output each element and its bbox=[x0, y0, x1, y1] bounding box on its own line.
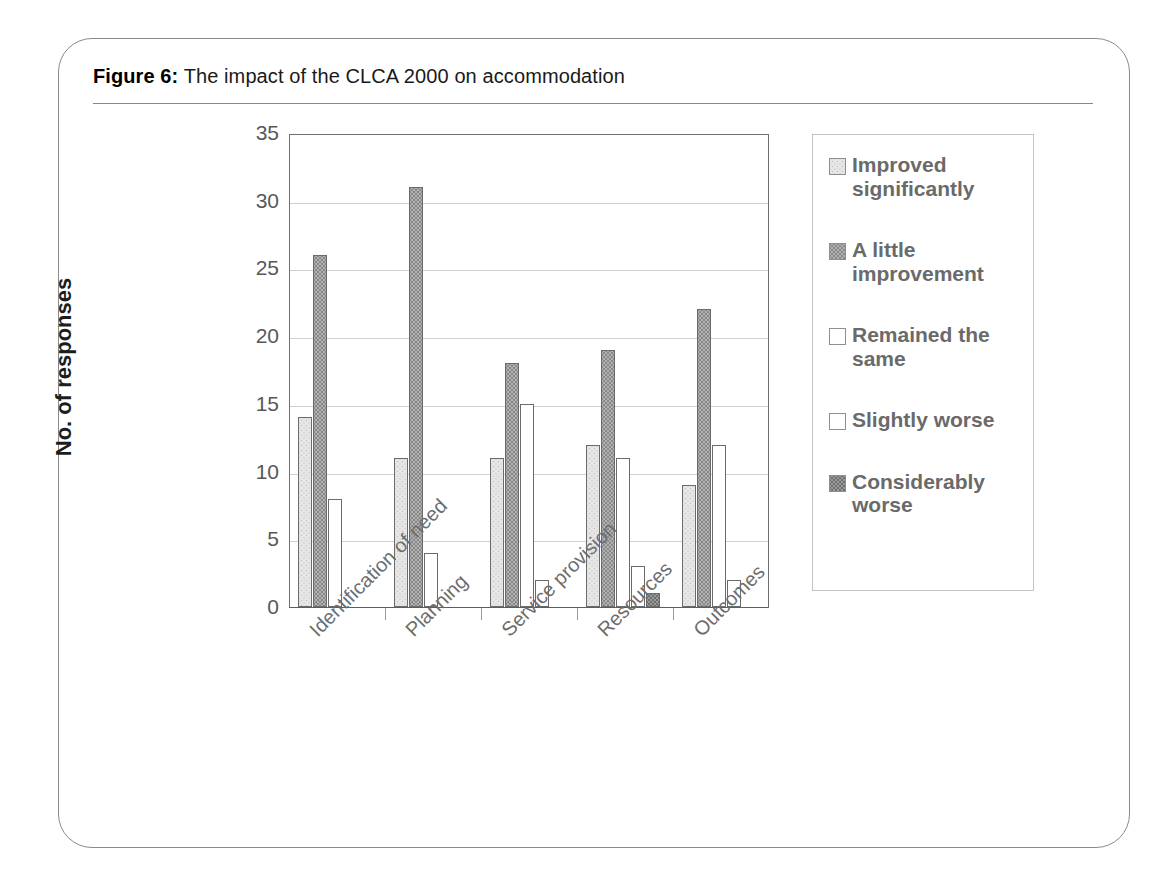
bar bbox=[601, 350, 615, 607]
x-axis-tick bbox=[673, 608, 674, 620]
x-axis-tick bbox=[577, 608, 578, 620]
legend-swatch-icon bbox=[829, 158, 846, 175]
legend-item[interactable]: Considerably worse bbox=[829, 470, 1033, 517]
legend-label: Remained the same bbox=[852, 323, 1030, 370]
legend-swatch-icon bbox=[829, 328, 846, 345]
bar bbox=[490, 458, 504, 607]
y-axis-tick-label: 35 bbox=[235, 121, 279, 145]
legend-label: A little improvement bbox=[852, 238, 1030, 285]
y-axis-tick-label: 0 bbox=[235, 595, 279, 619]
legend-item[interactable]: Slightly worse bbox=[829, 408, 1033, 432]
bar bbox=[697, 309, 711, 607]
y-axis-tick-label: 5 bbox=[235, 527, 279, 551]
y-axis-tick-label: 20 bbox=[235, 324, 279, 348]
chart-legend: Improved significantlyA little improveme… bbox=[812, 134, 1034, 591]
bar bbox=[712, 445, 726, 608]
y-axis-tick-label: 15 bbox=[235, 392, 279, 416]
legend-label: Considerably worse bbox=[852, 470, 1030, 517]
figure-caption: Figure 6: The impact of the CLCA 2000 on… bbox=[93, 65, 625, 88]
x-axis-tick bbox=[385, 608, 386, 620]
plot-area bbox=[289, 134, 769, 608]
legend-swatch-icon bbox=[829, 413, 846, 430]
y-axis-tick-label: 25 bbox=[235, 256, 279, 280]
bar bbox=[520, 404, 534, 607]
bar-group bbox=[290, 135, 386, 607]
legend-swatch-icon bbox=[829, 475, 846, 492]
legend-label: Slightly worse bbox=[852, 408, 994, 432]
legend-item[interactable]: Remained the same bbox=[829, 323, 1033, 370]
bar bbox=[505, 363, 519, 607]
figure-caption-text: The impact of the CLCA 2000 on accommoda… bbox=[184, 65, 625, 87]
bar-group bbox=[482, 135, 578, 607]
legend-label: Improved significantly bbox=[852, 153, 1030, 200]
y-axis-title: No. of responses bbox=[51, 217, 77, 517]
bar bbox=[298, 417, 312, 607]
caption-divider bbox=[93, 103, 1093, 104]
bar-group bbox=[674, 135, 770, 607]
x-axis-tick bbox=[481, 608, 482, 620]
legend-item[interactable]: A little improvement bbox=[829, 238, 1033, 285]
y-axis-tick-label: 10 bbox=[235, 460, 279, 484]
y-axis-tick-labels: 05101520253035 bbox=[227, 134, 279, 608]
figure-number: Figure 6: bbox=[93, 65, 178, 87]
legend-swatch-icon bbox=[829, 243, 846, 260]
figure-card: Figure 6: The impact of the CLCA 2000 on… bbox=[58, 38, 1130, 848]
y-axis-tick-label: 30 bbox=[235, 189, 279, 213]
legend-item[interactable]: Improved significantly bbox=[829, 153, 1033, 200]
bar bbox=[682, 485, 696, 607]
bar bbox=[313, 255, 327, 607]
